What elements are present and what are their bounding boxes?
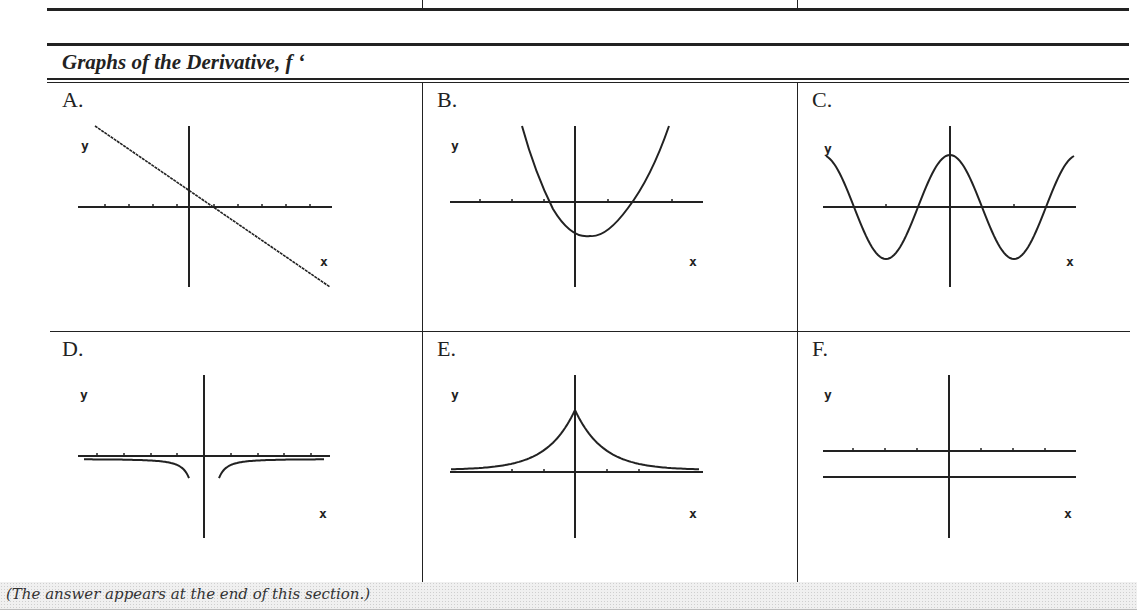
derivative-graph-d (48, 332, 422, 582)
derivative-graph-f (798, 332, 1130, 582)
graph-cell-c: C. y x (798, 83, 1130, 331)
section-double-rule-1 (47, 78, 1129, 80)
graph-cell-a: A. y x (48, 83, 422, 331)
table-bottom-rule (47, 8, 1129, 11)
graph-cell-d: D. y x (48, 332, 422, 582)
graph-cell-e: E. y x (423, 332, 797, 582)
graph-cell-f: F. y x (798, 332, 1130, 582)
answer-note: (The answer appears at the end of this s… (6, 585, 370, 603)
graph-cell-b: B. y x (423, 83, 797, 331)
section-top-rule (47, 43, 1129, 46)
derivative-graph-e (423, 332, 797, 582)
section-title: Graphs of the Derivative, f ‘ (62, 50, 305, 75)
derivative-graph-b (423, 83, 797, 331)
derivative-graph-a (48, 83, 422, 331)
answer-note-banner: (The answer appears at the end of this s… (0, 582, 1137, 610)
derivative-graph-c (798, 83, 1130, 331)
